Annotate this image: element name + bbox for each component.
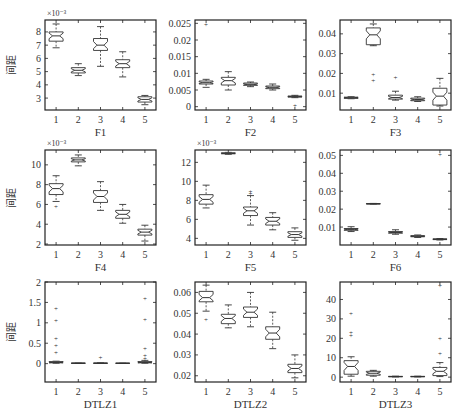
box-2 — [221, 152, 235, 154]
y-tick-label: 0.02 — [174, 370, 192, 381]
x-tick-label: 2 — [76, 114, 81, 125]
y-tick-label: 0.05 — [319, 150, 337, 161]
box-5 — [288, 228, 302, 240]
y-tick-label: 0.05 — [174, 308, 192, 319]
x-tick-label: 2 — [226, 249, 231, 260]
y-tick-label: 0 — [186, 101, 191, 112]
outlier-marker: + — [204, 21, 208, 29]
y-tick-label: 0.005 — [169, 85, 192, 96]
y-tick-label: 0 — [36, 358, 41, 369]
y-tick-label: 2 — [36, 239, 41, 250]
y-tick-label: 0.015 — [169, 51, 192, 62]
x-tick-label: 5 — [437, 114, 442, 125]
box-5 — [138, 225, 152, 241]
axis-exponent: ×10⁻³ — [47, 9, 67, 18]
x-tick-label: 4 — [120, 386, 125, 397]
box-4 — [411, 235, 425, 238]
axis-exponent: ×10⁻³ — [47, 139, 67, 148]
y-tick-label: 1 — [36, 317, 41, 328]
y-tick-label: 0.03 — [319, 186, 337, 197]
outlier-marker: + — [438, 151, 442, 159]
box-3 — [389, 376, 403, 377]
x-axis-label: F1 — [95, 126, 107, 138]
x-tick-label: 1 — [54, 386, 59, 397]
box-3 — [94, 182, 108, 211]
outlier-marker: + — [371, 77, 375, 85]
box-5: + — [288, 95, 302, 109]
x-tick-label: 4 — [415, 386, 420, 397]
x-tick-label: 3 — [98, 114, 103, 125]
box-4 — [411, 376, 425, 377]
y-tick-label: 8 — [186, 195, 191, 206]
outlier-marker: + — [143, 355, 147, 363]
axes-frame — [45, 282, 156, 382]
x-tick-label: 1 — [54, 114, 59, 125]
x-tick-label: 1 — [204, 249, 209, 260]
x-tick-label: 5 — [142, 249, 147, 260]
x-tick-label: 5 — [292, 386, 297, 397]
panel-f5: 4681012×10⁻³12345F5++ — [181, 139, 306, 273]
x-tick-label: 4 — [270, 249, 275, 260]
y-axis-label: 间距 — [5, 322, 17, 342]
box-3: ++ — [244, 188, 258, 225]
x-tick-label: 1 — [204, 114, 209, 125]
x-tick-label: 5 — [292, 249, 297, 260]
box-3 — [244, 82, 258, 87]
boxplot-figure: 345678×10⁻³间距12345F100.0050.010.0150.020… — [0, 0, 466, 416]
y-tick-label: 10 — [181, 176, 191, 187]
box-4 — [266, 213, 280, 230]
x-axis-label: F2 — [245, 126, 257, 138]
x-axis-label: F5 — [245, 261, 257, 273]
y-tick-label: 7 — [36, 40, 41, 51]
x-tick-label: 3 — [98, 249, 103, 260]
outlier-marker: + — [204, 316, 208, 324]
x-axis-label: DTLZ1 — [84, 398, 118, 410]
box-3 — [244, 292, 258, 326]
panel-f4: 246810×10⁻³间距12345F4+ — [5, 139, 156, 273]
panel-dtlz3: 01020304012345DTLZ3++++++ — [326, 282, 451, 410]
y-tick-label: 6 — [36, 199, 41, 210]
box-1: + — [199, 21, 213, 88]
x-axis-label: DTLZ2 — [234, 398, 268, 410]
box-5: +++++ — [138, 295, 152, 363]
y-axis-label: 间距 — [5, 55, 17, 75]
box-5: + — [433, 151, 447, 240]
box-2: ++ — [366, 24, 380, 85]
box-4 — [116, 52, 130, 77]
y-tick-label: 40 — [326, 294, 336, 305]
y-tick-label: 1.5 — [29, 297, 42, 308]
y-tick-label: 0.01 — [319, 222, 337, 233]
outlier-marker: + — [249, 190, 253, 198]
outlier-marker: + — [54, 317, 58, 325]
box-2 — [366, 203, 380, 204]
outlier-marker: + — [293, 102, 297, 110]
outlier-marker: + — [54, 203, 58, 211]
outlier-marker: + — [143, 295, 147, 303]
x-tick-label: 5 — [292, 114, 297, 125]
y-tick-label: 0.03 — [174, 349, 192, 360]
outlier-marker: + — [54, 305, 58, 313]
y-tick-label: 0.01 — [319, 88, 337, 99]
box-1 — [344, 97, 358, 99]
box-3: + — [389, 74, 403, 100]
box-2 — [221, 72, 235, 90]
outlier-marker: + — [99, 354, 103, 362]
outlier-marker: + — [349, 332, 353, 340]
outlier-marker: + — [349, 310, 353, 318]
box-3: + — [94, 354, 108, 363]
box-4 — [266, 312, 280, 348]
x-tick-label: 3 — [393, 249, 398, 260]
y-tick-label: 0.04 — [319, 28, 337, 39]
x-tick-label: 1 — [54, 249, 59, 260]
y-tick-label: 4 — [36, 79, 41, 90]
x-tick-label: 3 — [248, 114, 253, 125]
outlier-marker: + — [54, 349, 58, 357]
box-4 — [411, 97, 425, 102]
x-tick-label: 5 — [437, 386, 442, 397]
panel-f6: 0.010.020.030.040.0512345F6+ — [319, 150, 452, 273]
x-axis-label: DTLZ3 — [379, 398, 413, 410]
y-tick-label: 2 — [36, 277, 41, 288]
box-4 — [266, 84, 280, 90]
box-5 — [138, 95, 152, 104]
y-tick-label: 6 — [186, 214, 191, 225]
